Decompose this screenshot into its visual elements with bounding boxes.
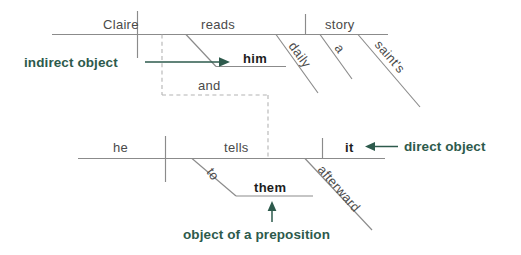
word-reads: reads	[201, 17, 235, 32]
word-claire: Claire	[103, 17, 139, 32]
sentence-diagram-svg: Claire reads story him daily a saint's a…	[0, 0, 521, 255]
word-story: story	[325, 17, 355, 32]
diagram-canvas: Claire reads story him daily a saint's a…	[0, 0, 521, 255]
indirect-object-arrow-head	[219, 57, 230, 67]
object-of-preposition-arrow-head	[268, 201, 277, 211]
annotation-indirect-object: indirect object	[24, 55, 118, 70]
word-he: he	[113, 140, 128, 155]
word-daily: daily	[286, 39, 315, 71]
word-it: it	[345, 140, 354, 155]
word-him: him	[243, 51, 267, 66]
article-a-diagonal	[320, 35, 352, 80]
word-them: them	[254, 180, 286, 195]
annotation-direct-object: direct object	[404, 139, 486, 154]
direct-object-arrow-head	[365, 142, 375, 151]
annotation-object-of-preposition: object of a preposition	[183, 227, 330, 242]
word-and: and	[198, 78, 221, 93]
word-afterward: afterward	[315, 162, 364, 215]
word-tells: tells	[224, 140, 249, 155]
word-to: to	[204, 165, 223, 183]
